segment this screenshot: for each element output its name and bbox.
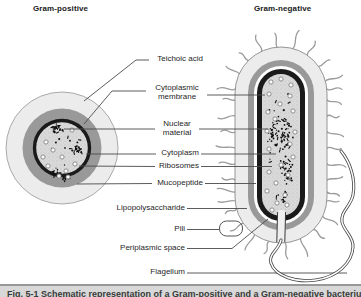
nuclear-material-speck (269, 139, 270, 140)
ribosome (278, 102, 282, 106)
ribosome (291, 155, 295, 159)
ribosome (279, 77, 283, 81)
pilus-hair (327, 132, 343, 137)
pilus-hair (264, 241, 269, 253)
nuclear-material-speck (287, 134, 288, 135)
label-cytoplasm: Cytoplasm (161, 149, 199, 158)
pilus-hair (327, 88, 342, 90)
figure-caption: Fig. 5-1 Schematic representation of a G… (0, 284, 361, 297)
nuclear-material-speck (274, 124, 275, 125)
leader-teichoic-acid (84, 60, 149, 101)
nuclear-material-speck (280, 148, 281, 149)
nuclear-material-speck (271, 129, 273, 131)
nuclear-material-speck (290, 166, 292, 168)
pilus-hair (216, 146, 235, 148)
ribosome (70, 128, 74, 132)
gram-positive-cell (6, 92, 118, 204)
nuclear-material-speck (290, 161, 291, 162)
ribosome (293, 130, 297, 134)
nuclear-material-speck (57, 169, 58, 170)
nuclear-material-speck (270, 128, 271, 129)
nuclear-material-speck (284, 180, 285, 181)
ribosome (270, 208, 274, 212)
leader-mucopeptide-left (77, 184, 152, 185)
nuclear-material-speck (279, 150, 280, 152)
label-mucopeptide: Mucopeptide (157, 179, 203, 188)
nuclear-material-speck (288, 125, 290, 127)
nuclear-material-speck (276, 132, 277, 133)
nuclear-material-speck (276, 123, 278, 125)
ribosome (275, 201, 279, 205)
ribosome (41, 155, 45, 159)
pilus-hair (314, 230, 325, 239)
nuclear-material-speck (281, 142, 282, 143)
label-pili: Pili (174, 225, 185, 234)
nuclear-material-speck (288, 170, 290, 172)
nuclear-material-speck (275, 134, 276, 135)
nuclear-material-speck (60, 128, 61, 129)
nuclear-material-speck (286, 144, 288, 146)
label-teichoic-acid: Teichoic acid (157, 55, 203, 64)
ribosome (267, 147, 271, 151)
pilus-hair (327, 115, 339, 118)
pilus-hair (327, 164, 346, 167)
nuclear-material-speck (276, 135, 278, 137)
ribosome (44, 140, 48, 144)
ribosome (51, 148, 55, 152)
nuclear-material-speck (74, 152, 75, 154)
pilus-hair (219, 162, 235, 165)
ribosome (288, 94, 292, 98)
ribosome (285, 203, 289, 207)
ribosome (289, 83, 293, 87)
nuclear-material-speck (275, 144, 277, 146)
pilus-hair (218, 201, 235, 203)
nuclear-material-speck (292, 137, 294, 139)
nuclear-material-speck (64, 164, 65, 165)
pilus-hair (285, 243, 288, 259)
nuclear-material-speck (62, 130, 63, 131)
pilus-hair (221, 130, 235, 133)
ribosome (265, 189, 269, 193)
label-nuclear-material: Nuclear material (157, 120, 197, 137)
nuclear-material-speck (272, 122, 273, 123)
nuclear-material-speck (290, 177, 292, 179)
pilus-hair (239, 53, 248, 61)
nuclear-material-speck (57, 170, 58, 171)
nuclear-material-speck (286, 123, 287, 124)
pilus-hair (325, 75, 342, 81)
label-ribosomes: Ribosomes (159, 162, 199, 171)
nuclear-material-speck (74, 146, 75, 147)
nuclear-material-speck (282, 201, 283, 202)
pilus-hair (255, 35, 261, 51)
ribosome (288, 142, 292, 146)
nuclear-material-speck (273, 134, 274, 136)
nuclear-material-speck (283, 161, 285, 163)
nuclear-material-speck (58, 138, 60, 140)
nuclear-material-speck (289, 164, 290, 165)
nuclear-material-speck (290, 126, 292, 128)
nuclear-material-speck (281, 140, 283, 142)
ribosome (269, 80, 273, 84)
nuclear-material-speck (55, 167, 56, 168)
pilus-hair (225, 209, 236, 214)
nuclear-material-speck (283, 109, 285, 111)
pilus-hair (217, 188, 235, 192)
nuclear-material-speck (57, 129, 58, 130)
nuclear-material-speck (64, 147, 66, 149)
nuclear-material-speck (285, 168, 287, 170)
ribosome (73, 162, 77, 166)
nuclear-material-speck (278, 116, 280, 118)
nuclear-material-speck (284, 191, 286, 193)
nuclear-material-speck (284, 146, 286, 148)
ribosome (283, 193, 287, 197)
ribosome (265, 129, 269, 133)
nuclear-material-speck (281, 199, 282, 200)
gram-negative-cell (216, 31, 346, 259)
nuclear-material-speck (289, 179, 290, 180)
label-cytoplasmic-membrane: Cytoplasmic membrane (149, 84, 205, 101)
pili-callout-loop (220, 221, 243, 236)
nuclear-material-speck (78, 146, 80, 148)
nuclear-material-speck (284, 140, 285, 141)
pilus-hair (323, 216, 338, 224)
ribosome (60, 155, 64, 159)
